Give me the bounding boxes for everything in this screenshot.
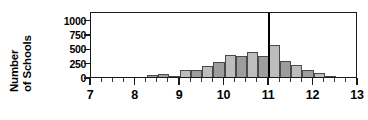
x-tick-minor (123, 78, 124, 82)
x-tick-minor (290, 78, 291, 82)
x-tick-label: 8 (131, 88, 138, 102)
plot-area (90, 12, 357, 78)
x-tick-label: 13 (350, 88, 363, 102)
x-tick-major (134, 78, 136, 85)
histogram-bar (158, 74, 169, 77)
x-tick-minor (245, 78, 246, 82)
x-tick-label: 10 (217, 88, 230, 102)
y-tick-label: 1000 (64, 16, 86, 26)
x-tick-minor (112, 78, 113, 82)
y-axis-title: Number of Schools (2, 0, 48, 92)
x-axis-tick-labels: 78910111213 (90, 88, 357, 108)
histogram-bar (269, 45, 280, 77)
x-tick-minor (323, 78, 324, 82)
histogram-bar (202, 66, 213, 77)
histogram-bar (213, 62, 224, 77)
histogram-bar (291, 65, 302, 77)
x-tick-minor (212, 78, 213, 82)
histogram-bar (280, 61, 291, 77)
x-tick-minor (279, 78, 280, 82)
histogram-bar (236, 56, 247, 77)
x-tick-major (178, 78, 180, 85)
x-tick-major (267, 78, 269, 85)
x-tick-major (356, 78, 358, 85)
y-axis-tick-labels: 02505007501000 (44, 8, 86, 78)
histogram-bar (225, 55, 236, 77)
x-tick-minor (167, 78, 168, 82)
histogram-bar (247, 52, 258, 77)
x-tick-major (312, 78, 314, 85)
y-axis-title-line-2: of Schools (21, 35, 33, 92)
x-tick-major (89, 78, 91, 85)
x-tick-minor (345, 78, 346, 82)
histogram-figure: Number of Schools 02505007501000 7891011… (0, 0, 368, 120)
reference-line-annotation (268, 13, 271, 77)
histogram-bar (325, 76, 336, 77)
x-tick-minor (145, 78, 146, 82)
x-tick-label: 7 (87, 88, 94, 102)
x-tick-minor (101, 78, 102, 82)
x-tick-minor (201, 78, 202, 82)
y-axis-title-line-1: Number (8, 50, 20, 92)
histogram-bar (147, 75, 158, 77)
x-tick-minor (334, 78, 335, 82)
x-tick-major (223, 78, 225, 85)
x-tick-minor (190, 78, 191, 82)
x-tick-minor (234, 78, 235, 82)
x-tick-label: 12 (306, 88, 319, 102)
histogram-bar (169, 76, 180, 77)
histogram-bar (314, 73, 325, 77)
x-tick-label: 11 (262, 88, 275, 102)
histogram-bar (302, 70, 313, 77)
histogram-bar (191, 70, 202, 77)
x-tick-minor (156, 78, 157, 82)
x-tick-label: 9 (176, 88, 183, 102)
x-tick-minor (256, 78, 257, 82)
x-axis-ticks (90, 78, 357, 86)
x-tick-minor (301, 78, 302, 82)
histogram-bar (180, 70, 191, 77)
